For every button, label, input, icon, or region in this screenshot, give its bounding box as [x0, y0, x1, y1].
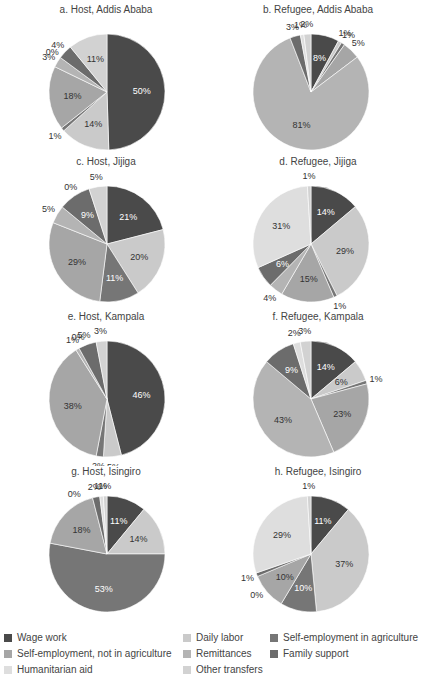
pie-chart: 14%6%1%23%43%9%2%3%	[212, 311, 424, 466]
slice-label: 11%	[110, 516, 127, 526]
pie-chart: 46%5%2%38%1%5%3%0%	[0, 311, 212, 466]
slice-label: 11%	[106, 273, 123, 283]
slice-label: 0%	[46, 47, 59, 57]
legend-swatch	[183, 634, 191, 642]
slice-label: 3%	[298, 326, 311, 336]
slice-label: 21%	[119, 212, 137, 222]
legend-item: Family support	[270, 648, 349, 659]
slice-label: 29%	[68, 257, 86, 267]
pie-panel: a. Host, Addis Ababa50%14%1%18%3%4%11%0%	[0, 4, 212, 159]
legend-swatch	[4, 666, 12, 674]
legend-swatch	[270, 650, 278, 658]
legend-item: Daily labor	[183, 632, 243, 643]
pie-chart: 50%14%1%18%3%4%11%0%	[0, 4, 212, 159]
slice-label: 1%	[302, 481, 315, 491]
slice-label: 0%	[72, 332, 85, 342]
legend-label: Daily labor	[196, 632, 243, 643]
slice-label: 1%	[98, 481, 111, 491]
slice-label: 1%	[48, 131, 61, 141]
slice-label: 18%	[63, 91, 81, 101]
slice-label: 50%	[133, 86, 151, 96]
legend-label: Self-employment, not in agriculture	[17, 648, 172, 659]
legend-label: Other transfers	[196, 664, 263, 675]
slice-label: 3%	[94, 326, 107, 336]
slice-label: 38%	[64, 401, 82, 411]
pie-chart: 11%37%10%10%1%29%1%0%	[212, 466, 424, 621]
legend-swatch	[4, 650, 12, 658]
pie-chart: 21%20%11%29%5%9%5%0%	[0, 156, 212, 311]
legend-item: Other transfers	[183, 664, 263, 675]
slice-label: 5%	[90, 172, 103, 182]
legend-item: Remittances	[183, 648, 252, 659]
slice-label: 14%	[129, 534, 147, 544]
slice-label: 1%	[241, 573, 254, 583]
slice-label: 53%	[95, 584, 113, 594]
slice-label: 5%	[42, 204, 55, 214]
slice-label: 1%	[370, 374, 383, 384]
slice-label: 29%	[336, 246, 354, 256]
slice-label: 14%	[84, 119, 102, 129]
legend-label: Family support	[283, 648, 349, 659]
legend-label: Self-employment in agriculture	[283, 632, 418, 643]
pie-panel: c. Host, Jijiga21%20%11%29%5%9%5%0%	[0, 156, 212, 311]
legend-swatch	[270, 634, 278, 642]
legend-label: Humanitarian aid	[17, 664, 93, 675]
legend-swatch	[4, 634, 12, 642]
slice-label: 14%	[317, 207, 335, 217]
slice-label: 10%	[276, 572, 294, 582]
legend-label: Wage work	[17, 632, 67, 643]
pie-chart: 14%29%1%15%4%6%31%1%	[212, 156, 424, 311]
slice-label: 5%	[352, 38, 365, 48]
slice-label: 18%	[73, 525, 91, 535]
slice-label: 11%	[87, 54, 104, 64]
slice-label: 29%	[273, 530, 291, 540]
pie-panel: f. Refugee, Kampala14%6%1%23%43%9%2%3%	[212, 311, 424, 466]
slice-label: 43%	[274, 415, 292, 425]
legend-item: Self-employment in agriculture	[270, 632, 418, 643]
slice-label: 1%	[302, 171, 315, 181]
slice-label: 11%	[314, 516, 331, 526]
legend-swatch	[183, 666, 191, 674]
slice-label: 2%	[300, 19, 313, 29]
pie-panel: h. Refugee, Isingiro11%37%10%10%1%29%1%0…	[212, 466, 424, 621]
legend-swatch	[183, 650, 191, 658]
slice-label: 15%	[300, 274, 318, 284]
slice-label: 81%	[292, 120, 310, 130]
pie-panel: g. Host, Isingiro11%14%53%18%2%1%1%0%	[0, 466, 212, 621]
slice-label: 4%	[263, 293, 276, 303]
legend-item: Humanitarian aid	[4, 664, 93, 675]
slice-label: 10%	[294, 583, 312, 593]
slice-label: 0%	[68, 489, 81, 499]
pie-chart: 8%1%1%5%81%3%1%2%	[212, 4, 424, 159]
pie-panel: e. Host, Kampala46%5%2%38%1%5%3%0%	[0, 311, 212, 466]
slice-label: 14%	[317, 362, 335, 372]
slice-label: 31%	[272, 221, 290, 231]
pie-panel: d. Refugee, Jijiga14%29%1%15%4%6%31%1%	[212, 156, 424, 311]
slice-label: 46%	[133, 390, 151, 400]
legend-item: Wage work	[4, 632, 67, 643]
pie-chart: 11%14%53%18%2%1%1%0%	[0, 466, 212, 621]
pie-panel: b. Refugee, Addis Ababa8%1%1%5%81%3%1%2%	[212, 4, 424, 159]
slice-label: 8%	[313, 53, 326, 63]
slice-label: 0%	[250, 590, 263, 600]
slice-label: 20%	[130, 252, 148, 262]
slice-label: 0%	[64, 182, 77, 192]
slice-label: 6%	[335, 377, 348, 387]
slice-label: 1%	[333, 301, 346, 311]
slice-label: 9%	[81, 210, 94, 220]
slice-label: 9%	[285, 365, 298, 375]
legend-label: Remittances	[196, 648, 252, 659]
slice-label: 6%	[276, 259, 289, 269]
slice-label: 23%	[333, 409, 351, 419]
slice-label: 37%	[335, 559, 353, 569]
legend-item: Self-employment, not in agriculture	[4, 648, 172, 659]
